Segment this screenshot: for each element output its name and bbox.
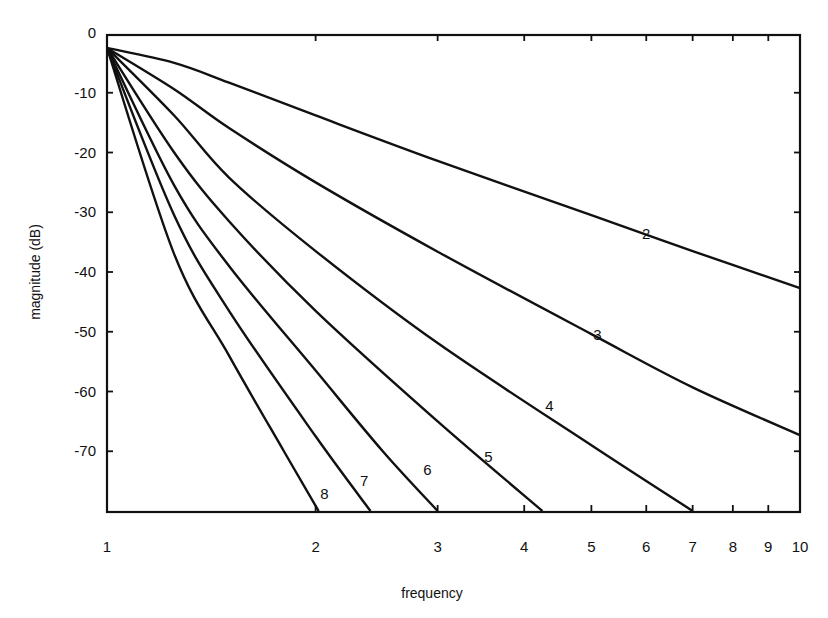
y-tick-label: -70 xyxy=(74,442,96,459)
x-tick-label: 9 xyxy=(764,538,772,555)
y-axis-title: magnitude (dB) xyxy=(27,224,43,320)
curve-label-2: 2 xyxy=(642,225,650,242)
curve-label-8: 8 xyxy=(320,485,328,502)
magnitude-response-chart: 0-10-20-30-40-50-60-70 12345678910 23456… xyxy=(0,0,828,618)
y-tick-label: -60 xyxy=(74,383,96,400)
y-tick-label: -40 xyxy=(74,263,96,280)
x-tick-label: 1 xyxy=(103,538,111,555)
curve-label-3: 3 xyxy=(593,326,601,343)
curves xyxy=(107,48,800,511)
curve-order-4 xyxy=(107,48,693,511)
curve-labels: 2345678 xyxy=(320,225,650,502)
curve-order-2 xyxy=(107,48,800,288)
curve-order-6 xyxy=(107,48,438,511)
curve-label-7: 7 xyxy=(360,472,368,489)
y-tick-label: -20 xyxy=(74,144,96,161)
x-tick-label: 4 xyxy=(520,538,528,555)
x-tick-label: 7 xyxy=(688,538,696,555)
x-tick-label: 2 xyxy=(311,538,319,555)
x-tick-label: 3 xyxy=(433,538,441,555)
curve-label-4: 4 xyxy=(545,397,553,414)
y-tick-label: -30 xyxy=(74,203,96,220)
curve-label-5: 5 xyxy=(484,448,492,465)
curve-order-5 xyxy=(107,48,542,511)
x-tick-label: 6 xyxy=(642,538,650,555)
plot-border xyxy=(107,35,800,512)
y-tick-label: 0 xyxy=(88,24,96,41)
x-axis-title: frequency xyxy=(401,585,462,601)
curve-label-6: 6 xyxy=(423,461,431,478)
plot-frame xyxy=(107,35,800,512)
x-tick-label: 8 xyxy=(729,538,737,555)
x-tick-label: 5 xyxy=(587,538,595,555)
y-axis-ticks: 0-10-20-30-40-50-60-70 xyxy=(74,24,800,459)
y-tick-label: -50 xyxy=(74,323,96,340)
x-tick-label: 10 xyxy=(792,538,809,555)
y-tick-label: -10 xyxy=(74,84,96,101)
